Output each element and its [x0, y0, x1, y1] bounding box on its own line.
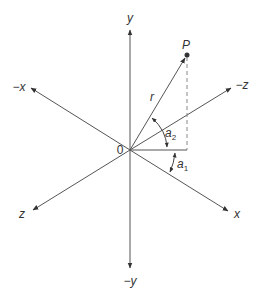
x-axis-negative	[31, 88, 130, 150]
angle-a2-label: a2	[165, 126, 177, 142]
neg-x-axis-label: −x	[12, 80, 26, 94]
origin-label: 0	[117, 143, 124, 157]
angle-a1-arc	[170, 153, 175, 172]
vector-r-label: r	[150, 90, 155, 104]
neg-z-axis-label: −z	[235, 78, 248, 92]
vector-r	[130, 58, 185, 150]
angle-a1-label: a1	[177, 157, 189, 173]
x-axis-label: x	[233, 207, 241, 221]
point-p-dot	[185, 53, 190, 58]
y-axis-label: y	[126, 11, 134, 25]
z-axis-negative	[130, 88, 231, 150]
coordinate-diagram: y −y −x x −z z 0 P r a2 a1	[0, 0, 255, 297]
z-axis-label: z	[18, 207, 25, 221]
neg-y-axis-label: −y	[123, 274, 137, 288]
angle-a1-subscript: 1	[184, 164, 189, 173]
point-p-label: P	[182, 38, 190, 52]
z-axis-positive	[33, 150, 130, 210]
angle-a2-subscript: 2	[172, 133, 177, 142]
